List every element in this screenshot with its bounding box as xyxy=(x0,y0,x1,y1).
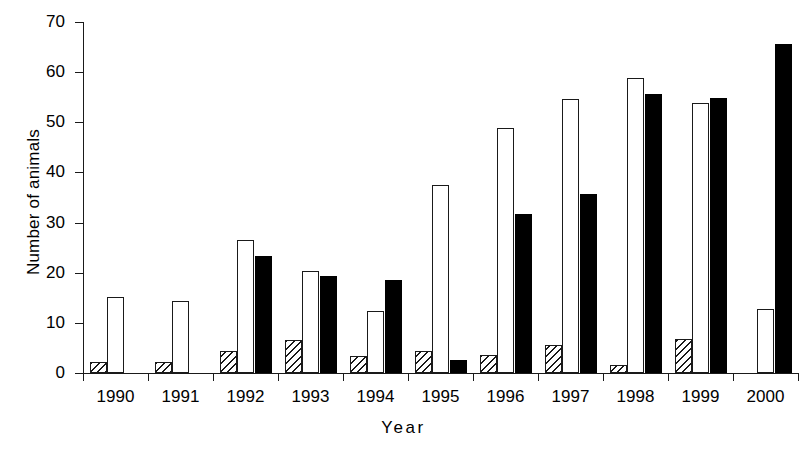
bar-white-2000 xyxy=(757,309,774,373)
x-tick-label: 1995 xyxy=(406,388,476,405)
bar-hatched-1990 xyxy=(90,362,107,373)
bar-white-1990 xyxy=(107,297,124,373)
bar-white-1997 xyxy=(562,99,579,373)
bar-white-1992 xyxy=(237,240,254,373)
bar-hatched-1995 xyxy=(415,351,432,373)
x-tick-mark xyxy=(213,373,214,381)
bar-white-1995 xyxy=(432,185,449,373)
bar-white-1991 xyxy=(172,301,189,373)
bar-group xyxy=(278,22,343,373)
x-tick-label: 1993 xyxy=(276,388,346,405)
x-axis-title: Year xyxy=(0,418,807,438)
x-tick-mark xyxy=(668,373,669,381)
bar-black-1997 xyxy=(580,194,597,373)
y-tick-label: 60 xyxy=(25,63,65,80)
x-tick-mark xyxy=(473,373,474,381)
x-tick-label: 1990 xyxy=(81,388,151,405)
y-tick-mark xyxy=(75,373,83,374)
bar-group xyxy=(603,22,668,373)
x-axis-line xyxy=(83,373,798,374)
x-tick-mark xyxy=(343,373,344,381)
bar-white-1994 xyxy=(367,311,384,373)
x-tick-label: 1994 xyxy=(341,388,411,405)
bar-group xyxy=(83,22,148,373)
bar-hatched-1993 xyxy=(285,340,302,373)
y-tick-label: 20 xyxy=(25,264,65,281)
y-tick-label: 0 xyxy=(25,364,65,381)
x-tick-label: 1991 xyxy=(146,388,216,405)
x-tick-mark xyxy=(798,373,799,381)
y-tick-label: 10 xyxy=(25,314,65,331)
x-tick-label: 2000 xyxy=(731,388,801,405)
x-tick-mark xyxy=(278,373,279,381)
bar-hatched-1999 xyxy=(675,339,692,373)
bar-black-2000 xyxy=(775,44,792,373)
bar-hatched-1996 xyxy=(480,355,497,373)
bar-black-1992 xyxy=(255,256,272,373)
bar-white-1999 xyxy=(692,103,709,373)
y-axis-title: Number of animals xyxy=(24,72,44,332)
y-tick-mark xyxy=(75,323,83,324)
x-tick-label: 1998 xyxy=(601,388,671,405)
bar-group xyxy=(733,22,798,373)
bar-hatched-1994 xyxy=(350,356,367,373)
y-tick-mark xyxy=(75,22,83,23)
x-tick-mark xyxy=(538,373,539,381)
bar-hatched-1998 xyxy=(610,365,627,373)
bar-hatched-1992 xyxy=(220,351,237,373)
bar-black-1994 xyxy=(385,280,402,373)
x-tick-mark xyxy=(603,373,604,381)
x-tick-mark xyxy=(408,373,409,381)
y-tick-label: 70 xyxy=(25,13,65,30)
bar-group xyxy=(538,22,603,373)
bar-black-1996 xyxy=(515,214,532,373)
y-tick-mark xyxy=(75,122,83,123)
bar-hatched-1991 xyxy=(155,362,172,373)
bar-white-1993 xyxy=(302,271,319,373)
bar-group xyxy=(408,22,473,373)
x-tick-mark xyxy=(83,373,84,381)
y-tick-label: 30 xyxy=(25,214,65,231)
bar-black-1995 xyxy=(450,360,467,373)
bar-group xyxy=(473,22,538,373)
bar-white-1998 xyxy=(627,78,644,373)
x-tick-label: 1996 xyxy=(471,388,541,405)
x-tick-label: 1997 xyxy=(536,388,606,405)
bar-black-1999 xyxy=(710,98,727,373)
plot-area xyxy=(83,22,798,373)
bar-group xyxy=(148,22,213,373)
y-tick-mark xyxy=(75,273,83,274)
bar-black-1993 xyxy=(320,276,337,373)
y-tick-mark xyxy=(75,72,83,73)
bar-hatched-1997 xyxy=(545,345,562,373)
x-tick-label: 1999 xyxy=(666,388,736,405)
x-tick-label: 1992 xyxy=(211,388,281,405)
y-tick-label: 50 xyxy=(25,113,65,130)
x-tick-mark xyxy=(148,373,149,381)
x-tick-mark xyxy=(733,373,734,381)
bar-group xyxy=(343,22,408,373)
y-tick-mark xyxy=(75,223,83,224)
bar-group xyxy=(213,22,278,373)
bar-black-1998 xyxy=(645,94,662,373)
y-tick-mark xyxy=(75,172,83,173)
bar-chart: Number of animals 010203040506070 199019… xyxy=(0,0,807,458)
y-tick-label: 40 xyxy=(25,163,65,180)
bar-group xyxy=(668,22,733,373)
bar-white-1996 xyxy=(497,128,514,373)
